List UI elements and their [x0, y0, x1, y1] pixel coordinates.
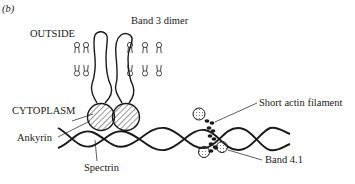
band-4-1-label: Band 4.1	[265, 154, 303, 165]
ankyrin-right	[113, 104, 140, 131]
band3-dimer	[91, 32, 133, 103]
lipid-bilayer-right	[127, 42, 161, 76]
band-4-1-leader	[228, 150, 262, 160]
spectrin-filament	[58, 128, 290, 151]
outside-label: OUTSIDE	[30, 28, 75, 39]
ankyrin-left	[88, 104, 115, 131]
panel-label: (b)	[2, 3, 15, 15]
ankyrin-label: Ankyrin	[17, 132, 53, 143]
lipid-bilayer-left	[74, 42, 88, 76]
short-actin-filament-label: Short actin filament	[259, 97, 342, 108]
band-4-1-bottom-left	[199, 147, 210, 158]
cytoplasm-label: CYTOPLASM	[12, 105, 76, 116]
band3-dimer-label: Band 3 dimer	[131, 15, 189, 26]
band-4-1-bottom-right	[217, 142, 228, 153]
ankyrin-leader	[58, 121, 90, 137]
band-4-1-top	[193, 108, 205, 120]
erythrocyte-membrane-diagram: (b) OUTSIDE Band 3 dimer CYTOPLASM Ankyr…	[0, 0, 355, 184]
actin-leader	[215, 103, 257, 122]
spectrin-label: Spectrin	[84, 162, 120, 173]
